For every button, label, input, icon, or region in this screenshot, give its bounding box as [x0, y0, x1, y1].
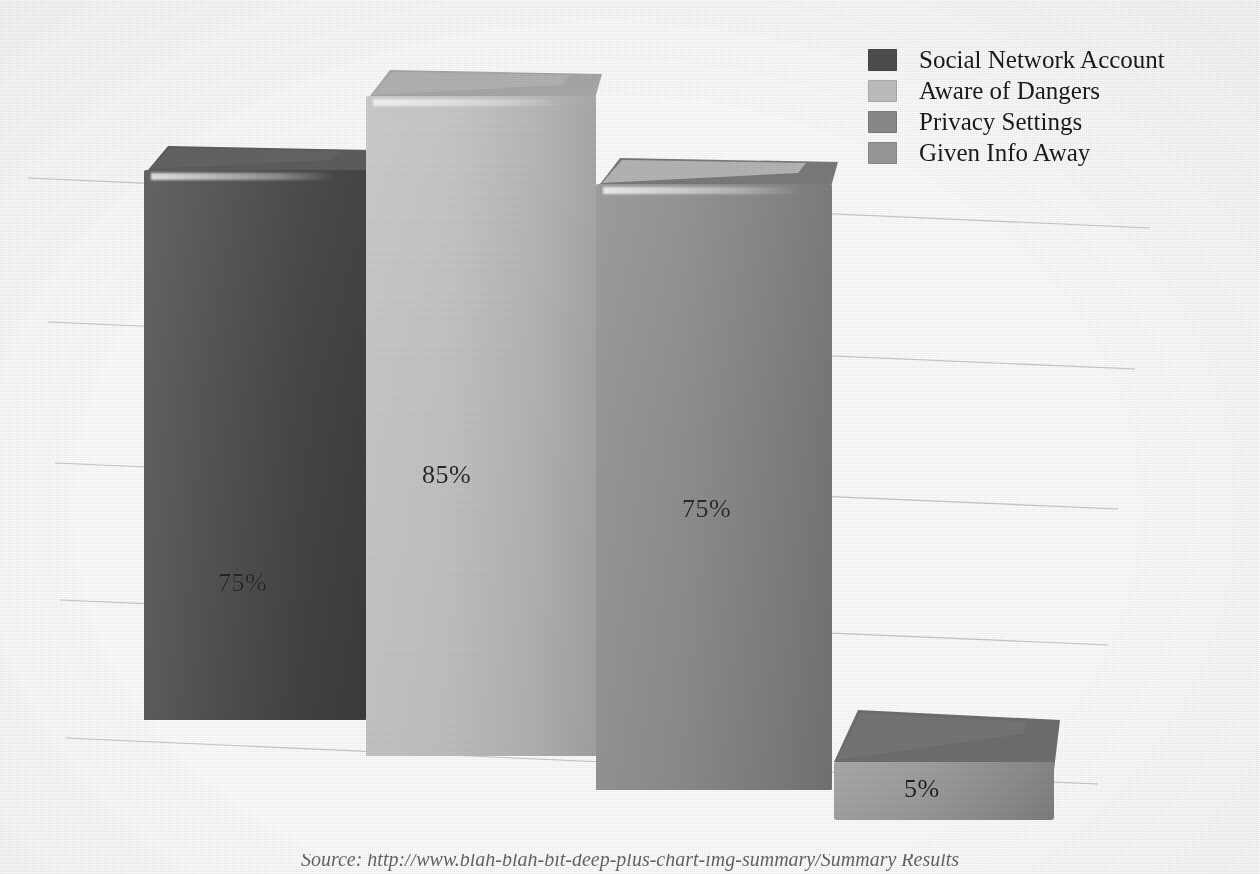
legend-swatch-icon	[868, 49, 897, 71]
legend-swatch-icon	[868, 142, 897, 164]
bar-body: 75%	[144, 170, 366, 720]
legend-swatch-icon	[868, 111, 897, 133]
bar-given-info-away: 5%	[828, 700, 1060, 826]
legend-item-privacy-settings[interactable]: Privacy Settings	[868, 106, 1165, 137]
bar-shading	[834, 762, 1054, 820]
source-caption: Source: http://www.blah-blah-bit-deep-pl…	[0, 854, 1260, 871]
bar-shading	[596, 184, 832, 790]
legend-item-label: Given Info Away	[919, 140, 1090, 165]
legend-item-label: Aware of Dangers	[919, 78, 1100, 103]
bar-social-network-account: 75%	[140, 140, 372, 720]
legend-item-social-network-account[interactable]: Social Network Account	[868, 44, 1165, 75]
legend-item-given-info-away[interactable]: Given Info Away	[868, 137, 1165, 168]
bar-value-label: 75%	[682, 494, 731, 524]
legend: Social Network Account Aware of Dangers …	[868, 44, 1165, 168]
bar-body: 5%	[834, 762, 1054, 820]
bar-shading	[144, 170, 366, 720]
bar-body: 85%	[366, 96, 596, 756]
bar-shading	[366, 96, 596, 756]
legend-item-label: Social Network Account	[919, 47, 1165, 72]
bar-privacy-settings: 75%	[592, 152, 838, 794]
bar-body: 75%	[596, 184, 832, 790]
bar-value-label: 75%	[218, 568, 267, 598]
bar-top-highlight	[151, 173, 335, 180]
bar-value-label: 5%	[904, 774, 940, 804]
legend-item-aware-of-dangers[interactable]: Aware of Dangers	[868, 75, 1165, 106]
bar-top-highlight	[603, 187, 799, 194]
bar-value-label: 85%	[422, 460, 471, 490]
bar-chart: 75% 85%	[0, 0, 1260, 874]
bar-top-highlight	[373, 99, 564, 106]
legend-item-label: Privacy Settings	[919, 109, 1082, 134]
legend-swatch-icon	[868, 80, 897, 102]
caption-clip-region: Source: http://www.blah-blah-bit-deep-pl…	[0, 854, 1260, 874]
bar-aware-of-dangers: 85%	[362, 64, 602, 756]
